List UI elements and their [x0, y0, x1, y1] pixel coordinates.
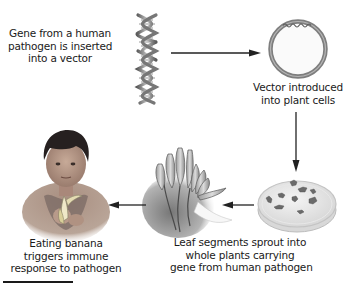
step-4-line-1: Eating banana [10, 237, 122, 250]
step-3-line-3: gene from human pathogen [170, 261, 310, 274]
arrow-down-icon [291, 112, 301, 172]
petri-dish-icon [256, 172, 338, 234]
child-eating-banana-icon [20, 126, 112, 236]
step-1-line-1: Gene from a human [8, 27, 112, 40]
step-1-label: Gene from a human pathogen is inserted i… [8, 27, 112, 65]
step-3-label: Leaf segments sprout into whole plants c… [170, 236, 310, 274]
step-4-label: Eating banana triggers immune response t… [10, 237, 122, 275]
step-3-line-2: whole plants carrying [170, 249, 310, 262]
step-4-line-3: response to pathogen [10, 262, 122, 275]
step-2-line-2: into plant cells [248, 94, 348, 107]
banana-plant-icon [146, 140, 234, 238]
dna-helix-icon [134, 14, 160, 104]
step-2-line-1: Vector introduced [248, 81, 348, 94]
arrow-left-icon [108, 200, 146, 210]
step-1-line-2: pathogen is inserted [8, 40, 112, 53]
footer-rule [3, 281, 73, 283]
step-4-line-2: triggers immune [10, 250, 122, 263]
step-2-label: Vector introduced into plant cells [248, 81, 348, 106]
step-1-line-3: into a vector [8, 52, 112, 65]
arrow-right-icon [171, 48, 261, 58]
step-3-line-1: Leaf segments sprout into [170, 236, 310, 249]
plasmid-vector-icon [267, 16, 329, 80]
